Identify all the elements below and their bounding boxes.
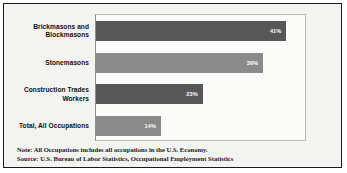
bar[interactable]: 14%	[96, 116, 161, 136]
bar[interactable]: 23%	[96, 84, 203, 104]
chart-figure: Brickmasons and Blockmasons 41% Stonemas…	[3, 3, 342, 168]
bar-row: Brickmasons and Blockmasons 41%	[96, 15, 305, 47]
category-label: Total, All Occupations	[0, 122, 89, 130]
bar-value-label: 14%	[144, 123, 156, 129]
bar-row: Construction Trades Workers 23%	[96, 79, 305, 111]
category-label: Brickmasons and Blockmasons	[0, 22, 89, 39]
footnote-source: Source: U.S. Bureau of Labor Statistics,…	[17, 155, 327, 164]
plot-area: Brickmasons and Blockmasons 41% Stonemas…	[95, 14, 306, 141]
bar-value-label: 23%	[186, 91, 198, 97]
bar-value-label: 36%	[247, 60, 259, 66]
bar[interactable]: 41%	[96, 21, 286, 41]
bar-row: Total, All Occupations 14%	[96, 110, 305, 142]
footnotes: Note: All Occupations includes all occup…	[17, 146, 327, 163]
footnote-note: Note: All Occupations includes all occup…	[17, 146, 327, 155]
bar-value-label: 41%	[270, 28, 282, 34]
category-label: Stonemasons	[0, 58, 89, 66]
bar-row: Stonemasons 36%	[96, 47, 305, 79]
category-label: Construction Trades Workers	[0, 86, 89, 103]
bar[interactable]: 36%	[96, 53, 263, 73]
